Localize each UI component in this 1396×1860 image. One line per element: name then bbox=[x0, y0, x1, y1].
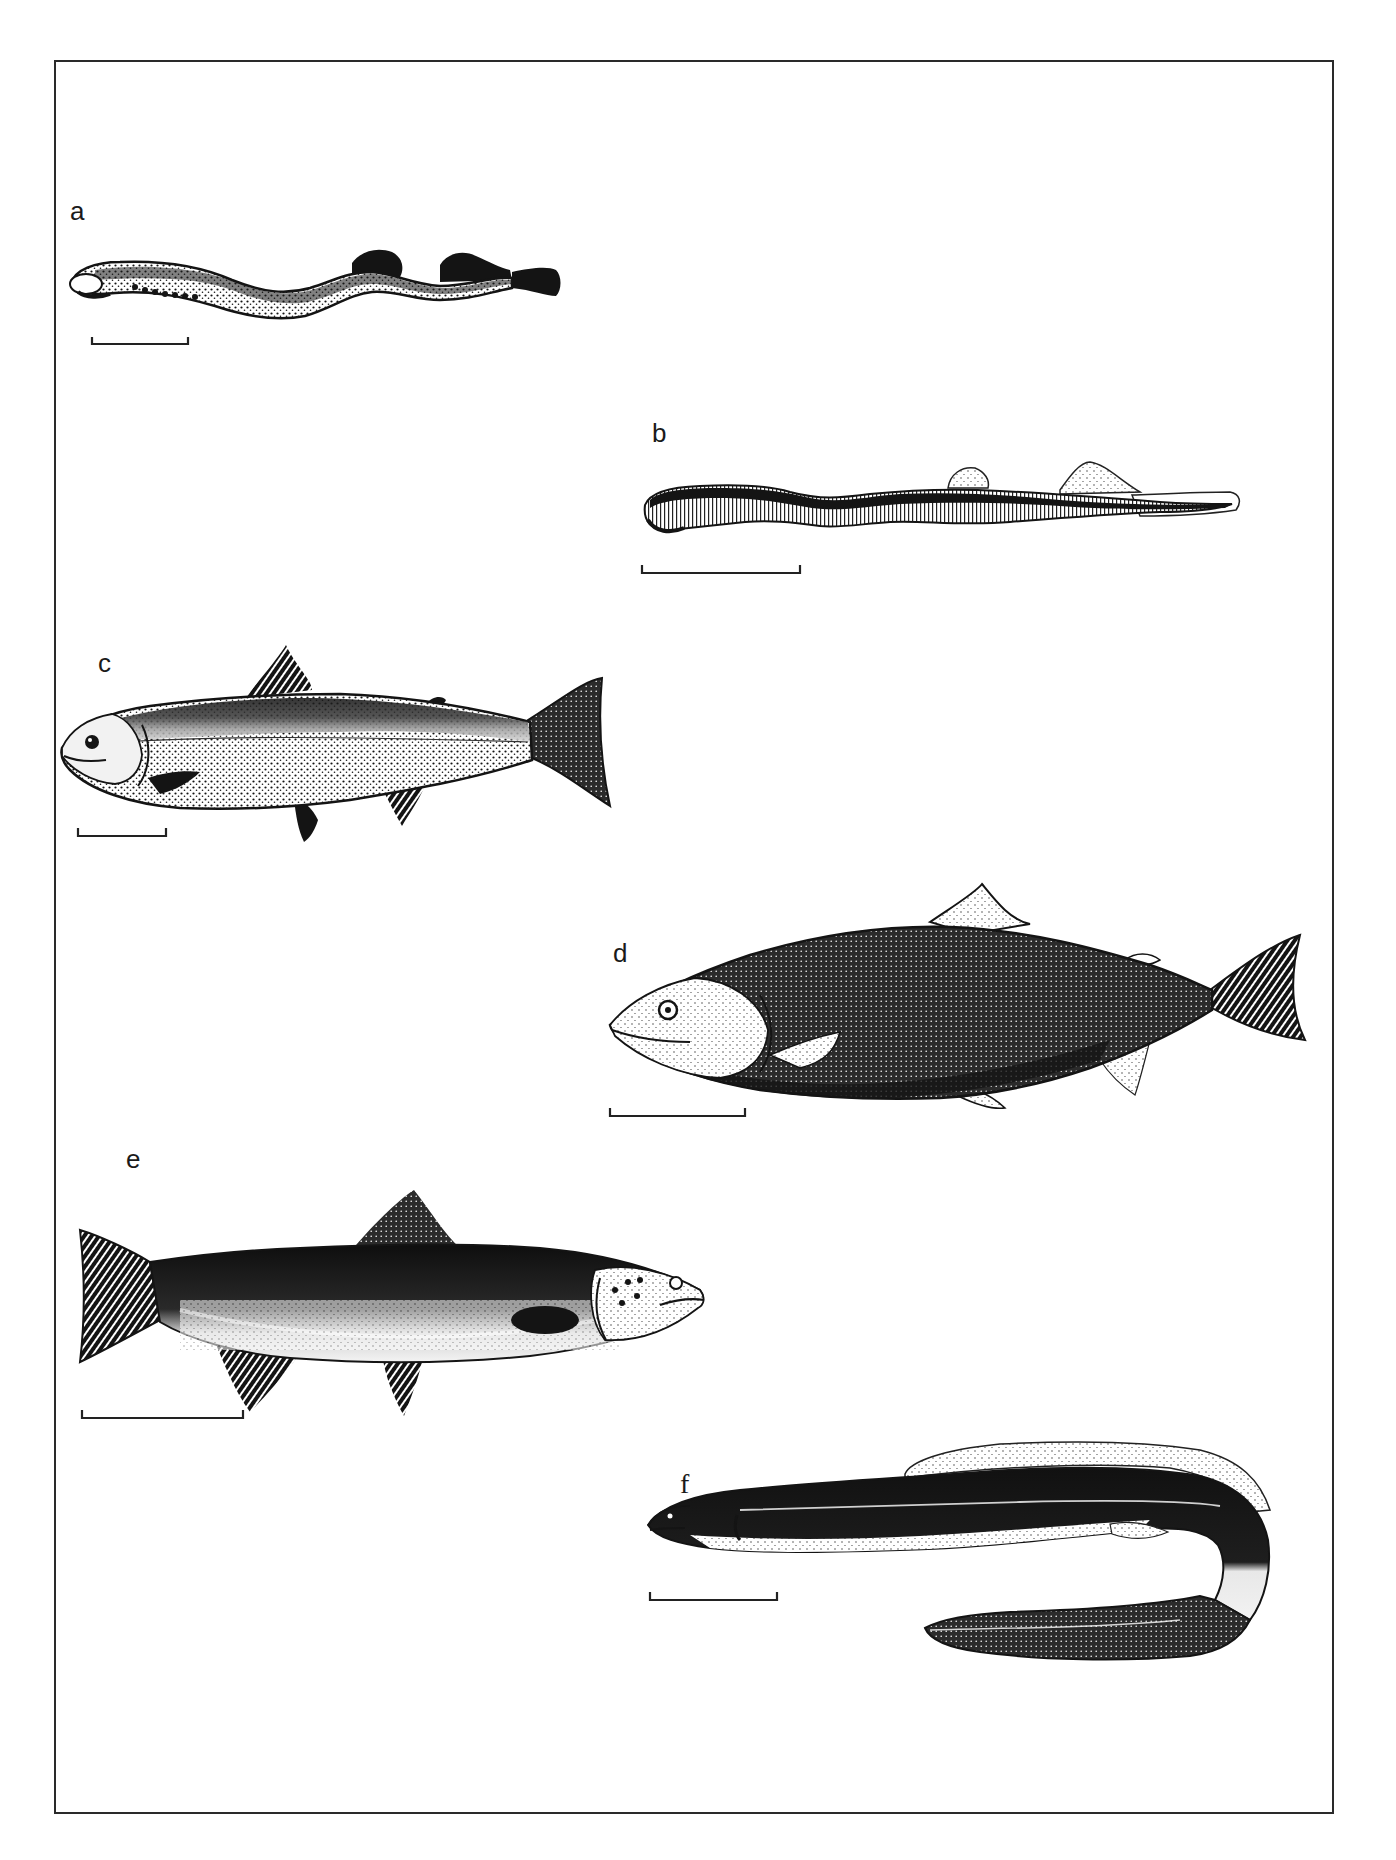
scale-bar-c bbox=[78, 828, 166, 836]
figure-illustrations bbox=[0, 0, 1396, 1860]
scale-bar-f bbox=[650, 1592, 777, 1600]
scale-bar-e bbox=[82, 1410, 243, 1418]
scale-bar-a bbox=[92, 337, 188, 344]
illustration-f-eel bbox=[648, 1442, 1270, 1659]
scale-bar-d bbox=[610, 1108, 745, 1116]
illustration-e-trout bbox=[80, 1190, 704, 1416]
illustration-b-larva bbox=[645, 462, 1240, 531]
scale-bar-b bbox=[642, 565, 800, 573]
illustration-a-lamprey bbox=[70, 250, 561, 319]
illustration-d-humpback-salmon bbox=[610, 884, 1305, 1108]
illustration-c-salmon bbox=[61, 645, 610, 842]
